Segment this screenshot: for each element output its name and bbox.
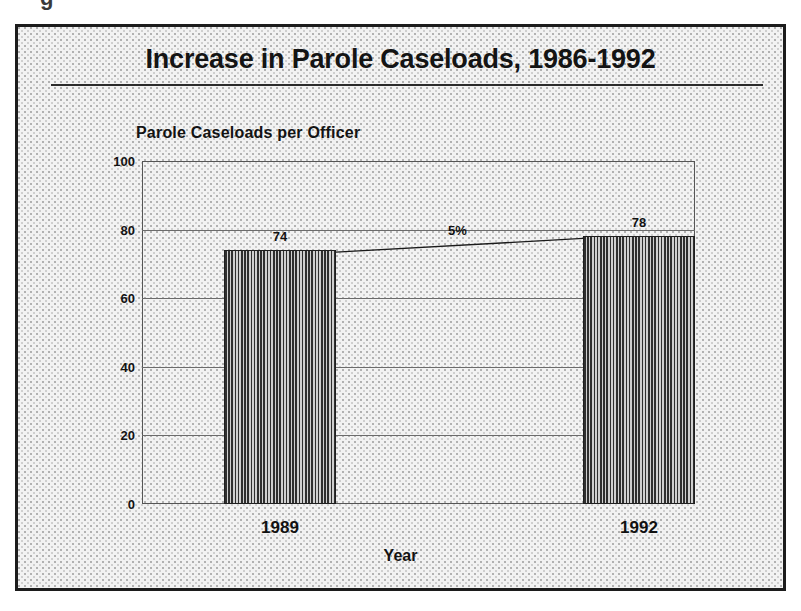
bar-1989 bbox=[224, 250, 336, 504]
percent-change-annotation: 5% bbox=[448, 223, 467, 238]
chart-title: Increase in Parole Caseloads, 1986-1992 bbox=[18, 44, 783, 75]
title-divider-rule bbox=[51, 84, 763, 86]
y-tick-label-80: 80 bbox=[121, 222, 135, 237]
bar-value-label-1992: 78 bbox=[632, 215, 646, 230]
bar-value-label-1989: 74 bbox=[273, 229, 287, 244]
gridline-80 bbox=[142, 230, 695, 231]
plot-area: 020406080100 7478 5% 19891992 bbox=[142, 161, 695, 504]
y-tick-label-60: 60 bbox=[121, 291, 135, 306]
x-axis-title: Year bbox=[18, 547, 783, 565]
bar-1992 bbox=[583, 236, 695, 504]
y-tick-label-100: 100 bbox=[113, 154, 135, 169]
y-tick-label-40: 40 bbox=[121, 359, 135, 374]
y-tick-label-0: 0 bbox=[128, 497, 135, 512]
x-tick-label-1992: 1992 bbox=[620, 518, 658, 538]
y-axis-caption: Parole Caseloads per Officer bbox=[136, 124, 360, 142]
clipped-top-glyph: g bbox=[40, 0, 54, 9]
y-tick-label-20: 20 bbox=[121, 428, 135, 443]
x-tick-label-1989: 1989 bbox=[261, 518, 299, 538]
figure-frame: Increase in Parole Caseloads, 1986-1992 … bbox=[15, 24, 786, 591]
